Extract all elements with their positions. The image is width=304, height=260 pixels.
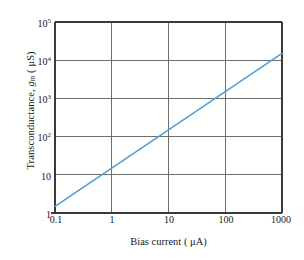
gridlines [55,22,282,213]
chart-figure: Transconductance, gm ( μS) Bias current … [0,0,304,260]
plot-area [0,0,304,260]
axes-frame [51,22,282,213]
